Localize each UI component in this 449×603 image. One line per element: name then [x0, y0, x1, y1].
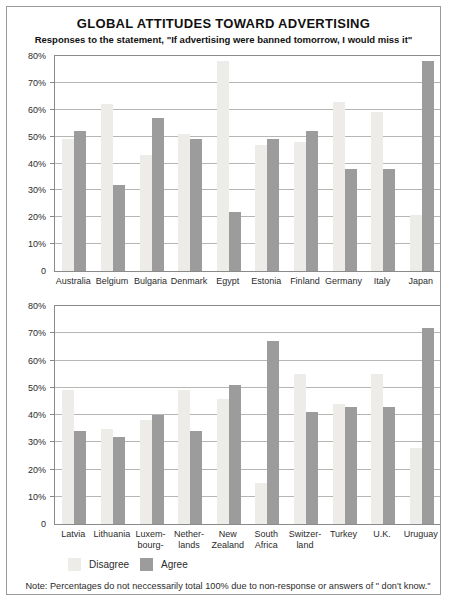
legend-item-agree: Agree	[140, 558, 188, 571]
axis-tick	[50, 243, 55, 244]
x-axis-label: Egypt	[206, 276, 249, 287]
plot-area: 80%70%60%50%40%30%20%10%0	[54, 55, 441, 272]
x-axis-label: Estonia	[245, 276, 288, 287]
bar-disagree	[333, 404, 345, 524]
x-axis-label: Denmark	[168, 276, 211, 287]
y-tick-label: 30%	[28, 437, 46, 447]
x-axis-label: Germany	[322, 276, 365, 287]
y-tick-label: 40%	[28, 158, 46, 168]
x-axis-label: Lithuania	[91, 529, 134, 540]
bar-agree	[345, 169, 357, 271]
y-tick-label: 50%	[28, 382, 46, 392]
x-axis-label: Japan	[399, 276, 441, 287]
axis-tick	[50, 387, 55, 388]
disagree-swatch	[68, 558, 81, 571]
bar-disagree	[217, 399, 229, 524]
y-tick-label: 70%	[28, 77, 46, 87]
axis-tick	[50, 163, 55, 164]
bar-agree	[383, 407, 395, 524]
x-axis-label: Belgium	[91, 276, 134, 287]
y-tick-label: 70%	[28, 328, 46, 338]
x-axis-labels: LatviaLithuaniaLuxem-bourg-Nether-landsN…	[54, 525, 440, 551]
axis-tick	[50, 414, 55, 415]
bar-agree	[229, 212, 241, 271]
x-axis-label: NewZealand	[206, 529, 249, 550]
bar-agree	[152, 415, 164, 524]
bar-disagree	[62, 390, 74, 524]
figure-frame: GLOBAL ATTITUDES TOWARD ADVERTISING Resp…	[6, 6, 441, 595]
bar-disagree	[140, 420, 152, 524]
bar-agree	[113, 185, 125, 271]
y-tick-label: 10%	[28, 491, 46, 501]
y-tick-label: 30%	[28, 185, 46, 195]
y-tick-label: 0	[41, 266, 46, 276]
bar-agree	[190, 431, 202, 524]
bar-disagree	[217, 61, 229, 271]
gridline	[55, 82, 441, 83]
y-tick-label: 20%	[28, 464, 46, 474]
gridline	[55, 360, 441, 361]
bar-disagree	[333, 102, 345, 271]
axis-tick	[50, 82, 55, 83]
bar-disagree	[255, 145, 267, 271]
bar-disagree	[294, 142, 306, 271]
x-axis-label: Latvia	[52, 529, 95, 540]
bar-disagree	[371, 112, 383, 271]
bar-agree	[267, 139, 279, 271]
bar-disagree	[410, 215, 422, 271]
bar-agree	[345, 407, 357, 524]
x-axis-label: Turkey	[322, 529, 365, 540]
y-tick-label: 10%	[28, 239, 46, 249]
bar-agree	[190, 139, 202, 271]
bar-disagree	[178, 390, 190, 524]
legend-label-disagree: Disagree	[89, 559, 129, 570]
bar-disagree	[101, 429, 113, 524]
x-axis-label: Finland	[284, 276, 327, 287]
bar-disagree	[410, 448, 422, 524]
x-axis-label: Switzer-land	[284, 529, 327, 550]
x-axis-label: Uruguay	[399, 529, 441, 540]
axis-tick	[50, 109, 55, 110]
bar-agree	[74, 431, 86, 524]
bar-agree	[422, 328, 434, 524]
plot-area: 80%70%60%50%40%30%20%10%0	[54, 305, 441, 525]
x-axis-label: Italy	[361, 276, 404, 287]
bar-agree	[74, 131, 86, 271]
axis-tick	[50, 332, 55, 333]
bar-disagree	[371, 374, 383, 524]
bar-disagree	[101, 104, 113, 271]
legend-label-agree: Agree	[161, 559, 188, 570]
top-bar-chart: 80%70%60%50%40%30%20%10%0 AustraliaBelgi…	[54, 55, 440, 292]
x-axis-label: Luxem-bourg-	[129, 529, 172, 550]
x-axis-label: Bulgaria	[129, 276, 172, 287]
bar-agree	[152, 118, 164, 271]
bar-agree	[383, 169, 395, 271]
legend: Disagree Agree	[68, 558, 440, 571]
chart-subtitle: Responses to the statement, "If advertis…	[7, 34, 440, 46]
bar-disagree	[255, 483, 267, 524]
bottom-bar-chart: 80%70%60%50%40%30%20%10%0 LatviaLithuani…	[54, 305, 440, 551]
bar-agree	[306, 412, 318, 524]
bar-disagree	[178, 134, 190, 271]
footnote: Note: Percentages do not neccessarily to…	[20, 581, 436, 591]
x-axis-labels: AustraliaBelgiumBulgariaDenmarkEgyptEsto…	[54, 272, 440, 292]
x-axis-label: U.K.	[361, 529, 404, 540]
axis-tick	[50, 441, 55, 442]
axis-tick	[50, 360, 55, 361]
bar-agree	[306, 131, 318, 271]
agree-swatch	[140, 558, 153, 571]
bar-agree	[229, 385, 241, 524]
axis-tick	[50, 189, 55, 190]
axis-tick	[50, 136, 55, 137]
y-tick-label: 80%	[28, 301, 46, 311]
bar-agree	[422, 61, 434, 271]
x-axis-label: SouthAfrica	[245, 529, 288, 550]
y-tick-label: 40%	[28, 410, 46, 420]
axis-tick	[50, 469, 55, 470]
bar-disagree	[62, 139, 74, 271]
bar-disagree	[140, 155, 152, 271]
x-axis-label: Nether-lands	[168, 529, 211, 550]
axis-tick	[50, 216, 55, 217]
legend-item-disagree: Disagree	[68, 558, 129, 571]
axis-tick	[50, 496, 55, 497]
